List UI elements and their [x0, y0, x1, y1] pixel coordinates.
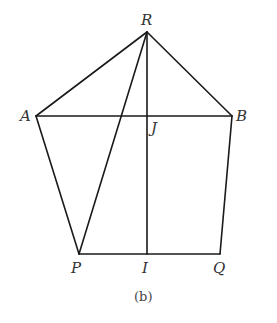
label-R: R	[140, 11, 152, 29]
segment-RP	[79, 32, 147, 254]
pentagon-diagram: R A B J P I Q (b)	[0, 0, 277, 323]
label-I: I	[141, 259, 149, 277]
label-B: B	[235, 107, 247, 125]
segment-AP	[36, 116, 79, 254]
label-J: J	[148, 119, 158, 137]
segment-BQ	[220, 116, 232, 254]
label-A: A	[18, 107, 31, 125]
label-Q: Q	[213, 259, 225, 277]
segment-RA	[36, 32, 147, 116]
segment-RB	[147, 32, 232, 116]
figure-caption: (b)	[134, 289, 152, 304]
label-P: P	[70, 259, 82, 277]
